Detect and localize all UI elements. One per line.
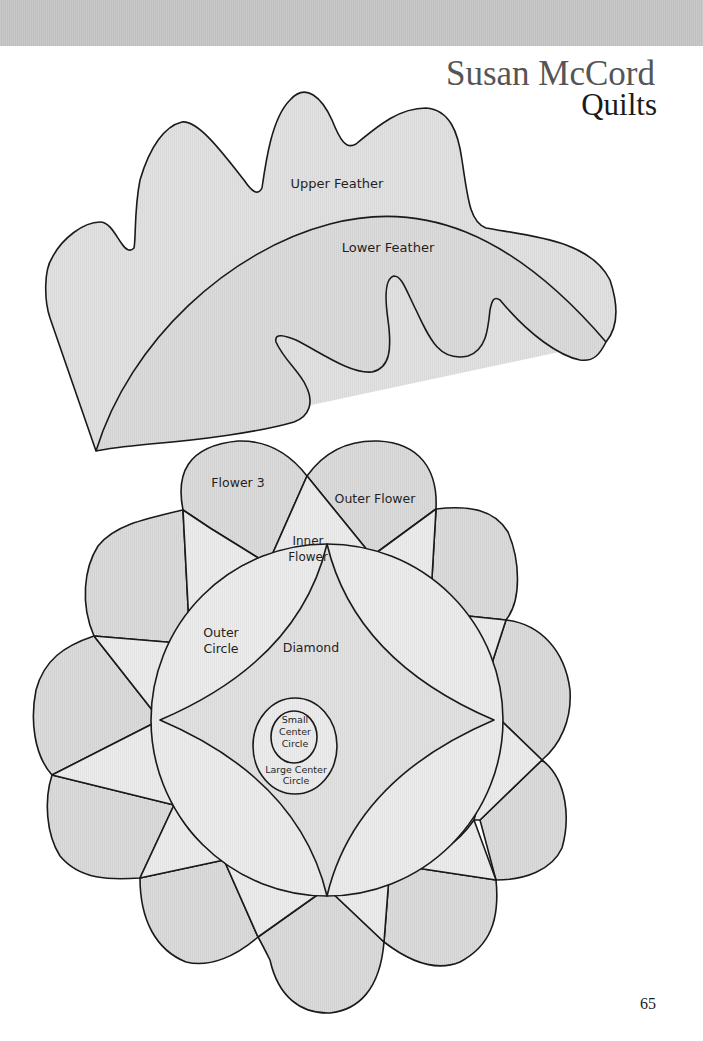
page-number: 65: [640, 995, 656, 1013]
large-center-circle-label-line1: Large Center: [265, 764, 327, 775]
inner-flower-label-line2: Flower: [288, 550, 328, 564]
diamond-label: Diamond: [283, 640, 339, 655]
large-center-circle-label-line2: Circle: [283, 775, 310, 786]
outer-flower-label: Outer Flower: [335, 491, 417, 506]
outer-circle-label-line2: Circle: [203, 641, 238, 656]
upper-feather-label: Upper Feather: [291, 176, 385, 191]
flower-template: Flower 3 Outer Flower Inner Flower Outer…: [33, 441, 570, 1013]
flower-3-label: Flower 3: [211, 475, 264, 490]
feather-template: Upper Feather Lower Feather: [46, 92, 616, 451]
pattern-templates: Upper Feather Lower Feather: [0, 0, 703, 1041]
outer-circle-label-line1: Outer: [203, 625, 239, 640]
small-center-circle-label-line3: Circle: [282, 738, 309, 749]
small-center-circle-label-line1: Small: [282, 714, 308, 725]
petal: [85, 510, 190, 644]
lower-feather-label: Lower Feather: [342, 240, 435, 255]
small-center-circle-label-line2: Center: [279, 726, 311, 737]
inner-flower-label-line1: Inner: [292, 534, 323, 548]
